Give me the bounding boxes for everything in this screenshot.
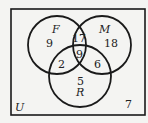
region-m-only: 18 xyxy=(104,37,118,50)
region-f-r: 2 xyxy=(58,58,65,71)
venn-diagram: F M R U 9 18 5 17 2 6 9 7 xyxy=(0,0,148,123)
region-f-m-r: 9 xyxy=(76,48,83,61)
region-f-only: 9 xyxy=(46,37,53,50)
set-f-label: F xyxy=(51,23,60,36)
region-m-r: 6 xyxy=(94,58,101,71)
region-outside: 7 xyxy=(125,98,132,111)
region-f-m: 17 xyxy=(72,32,86,45)
set-m-label: M xyxy=(98,23,111,36)
region-r-only: 5 xyxy=(77,75,84,88)
universe-label: U xyxy=(15,101,25,114)
